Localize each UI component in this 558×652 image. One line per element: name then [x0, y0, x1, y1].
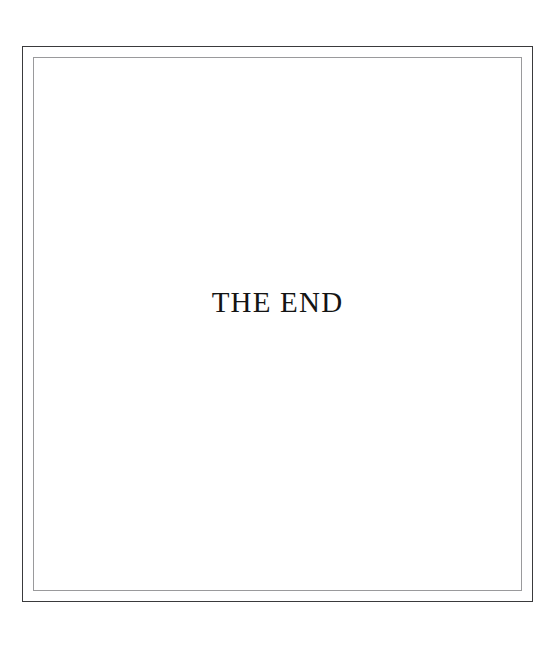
end-title-block: THE END	[33, 288, 522, 317]
end-title-text: THE END	[212, 288, 344, 317]
page-surface: THE END	[0, 0, 558, 652]
framed-page-interior	[34, 58, 521, 590]
